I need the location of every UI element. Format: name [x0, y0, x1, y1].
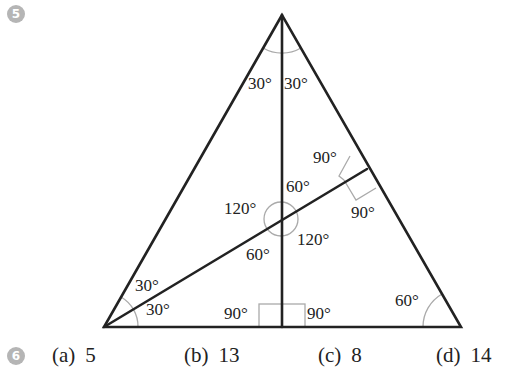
- answer-b: (b)13: [184, 343, 240, 368]
- answer-d-value: 14: [471, 343, 492, 367]
- label-intersection-right: 120°: [297, 230, 329, 249]
- answer-a-label: (a): [52, 343, 75, 367]
- right-angle-marker-right: [282, 304, 305, 327]
- label-right-angle-lower: 90°: [351, 203, 375, 222]
- right-angle-marker-lower: [344, 180, 376, 200]
- answer-c: (c)8: [318, 343, 362, 368]
- label-intersection-left: 120°: [224, 199, 256, 218]
- label-bottom-right: 60°: [395, 291, 419, 310]
- answer-b-label: (b): [184, 343, 209, 367]
- right-angle-marker-left: [259, 304, 282, 327]
- label-bottom-left-upper: 30°: [135, 276, 159, 295]
- label-right-angle-upper: 90°: [313, 148, 337, 167]
- bottom-right-angle-arc: [423, 294, 442, 327]
- right-angle-marker-upper: [339, 156, 350, 180]
- answer-b-value: 13: [219, 343, 240, 367]
- label-bottom-left-lower: 30°: [146, 300, 170, 319]
- label-foot-right: 90°: [307, 304, 331, 323]
- label-intersection-top: 60°: [286, 177, 310, 196]
- question-6-badge: 6: [7, 347, 25, 365]
- answer-c-label: (c): [318, 343, 341, 367]
- label-apex-left: 30°: [248, 74, 272, 93]
- answer-a: (a)5: [52, 343, 96, 368]
- answer-c-value: 8: [351, 343, 362, 367]
- answer-a-value: 5: [85, 343, 96, 367]
- answer-d-label: (d): [436, 343, 461, 367]
- label-foot-left: 90°: [224, 304, 248, 323]
- answer-d: (d)14: [436, 343, 492, 368]
- label-apex-right: 30°: [284, 74, 308, 93]
- label-intersection-bottom: 60°: [246, 245, 270, 264]
- triangle-diagram: 30° 30° 90° 90° 60° 120° 120° 60° 30° 30…: [0, 0, 511, 371]
